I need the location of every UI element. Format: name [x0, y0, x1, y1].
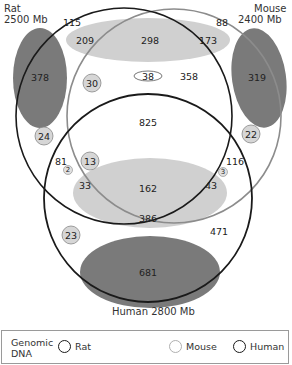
legend-item-human: Human [233, 340, 284, 353]
venn-diagram: 115 378 209 298 173 88 319 30 38 358 825… [0, 0, 292, 318]
venn-svg: 115 378 209 298 173 88 319 30 38 358 825… [0, 0, 292, 318]
value-3: 3 [221, 168, 225, 176]
value-13: 13 [84, 156, 96, 167]
mouse-label: Mouse 2400 Mb [253, 3, 286, 25]
rat-size: 2500 Mb [4, 14, 48, 25]
value-209: 209 [76, 35, 94, 46]
rat-circle-icon [58, 340, 71, 353]
value-378: 378 [31, 72, 49, 83]
value-681: 681 [139, 267, 157, 278]
legend-item-mouse: Mouse [169, 340, 217, 353]
value-116: 116 [226, 156, 244, 167]
legend-label-human: Human [250, 341, 284, 352]
mouse-circle-icon [169, 340, 182, 353]
legend-label-mouse: Mouse [186, 341, 217, 352]
value-88: 88 [216, 17, 228, 28]
value-33: 33 [79, 180, 91, 191]
mouse-size: 2400 Mb [238, 14, 286, 25]
legend-title-line2: DNA [11, 348, 53, 359]
value-24: 24 [38, 131, 50, 142]
value-319: 319 [248, 72, 266, 83]
value-825: 825 [139, 117, 157, 128]
value-23: 23 [65, 230, 77, 241]
value-298: 298 [141, 35, 159, 46]
mouse-name: Mouse [253, 3, 286, 14]
value-173: 173 [199, 35, 217, 46]
value-81: 81 [55, 156, 67, 167]
value-30: 30 [86, 78, 98, 89]
legend-label-rat: Rat [75, 341, 91, 352]
legend-title: Genomic DNA [11, 337, 53, 359]
human-label: Human 2800 Mb [112, 306, 195, 317]
value-162: 162 [139, 183, 157, 194]
value-38: 38 [142, 71, 154, 82]
human-circle-icon [233, 340, 246, 353]
value-358: 358 [180, 71, 198, 82]
value-386: 386 [139, 213, 157, 224]
value-471: 471 [210, 226, 228, 237]
legend: Genomic DNA Rat Mouse Human [1, 330, 289, 364]
rat-name: Rat [4, 3, 48, 14]
value-22: 22 [245, 129, 257, 140]
legend-title-line1: Genomic [11, 337, 53, 348]
value-115: 115 [63, 17, 81, 28]
value-43: 43 [205, 180, 217, 191]
rat-label: Rat 2500 Mb [4, 3, 48, 25]
value-2: 2 [66, 166, 70, 174]
legend-item-rat: Rat [58, 340, 91, 353]
